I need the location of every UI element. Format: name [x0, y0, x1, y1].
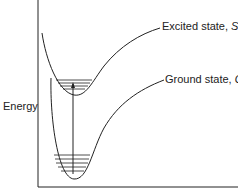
potential-energy-diagram: Energy Excited state, S1 Ground state, G	[0, 0, 238, 190]
excited-state-curve	[42, 28, 160, 95]
ground-state-label: Ground state, G	[165, 73, 238, 85]
ground-symbol: G	[235, 73, 238, 85]
ground-state-curve	[51, 78, 164, 179]
excited-state-label: Excited state, S1	[162, 20, 238, 34]
ground-label-text: Ground state,	[165, 73, 235, 85]
y-axis-label: Energy	[3, 100, 38, 112]
excited-label-text: Excited state,	[162, 20, 231, 32]
excited-symbol: S	[231, 20, 238, 32]
